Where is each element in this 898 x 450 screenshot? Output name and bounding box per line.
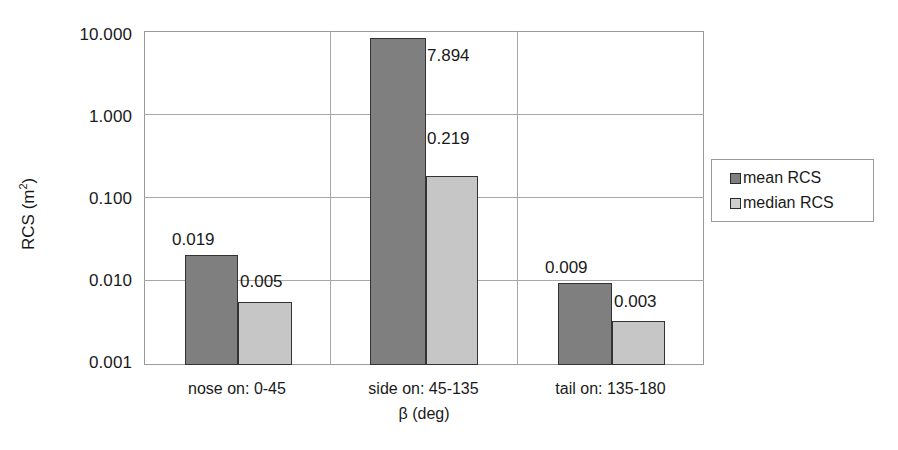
ytick-label: 10.000 — [26, 26, 132, 43]
ytick-1: 1.000 — [0, 108, 132, 125]
legend-swatch-icon — [730, 173, 741, 184]
chart-figure: 10.000 1.000 0.100 0.010 0.001 RCS (m2) … — [0, 0, 898, 450]
y-axis-title-close: ) — [19, 178, 38, 184]
bar-median-tail-on — [612, 321, 665, 365]
ytick-0.001: 0.001 — [0, 354, 132, 371]
bar-label-median-tail-on: 0.003 — [614, 293, 657, 310]
bar-median-nose-on — [238, 302, 292, 365]
ytick-label: 0.010 — [26, 272, 132, 289]
ytick-label: 0.001 — [26, 354, 132, 371]
y-axis-title: RCS (m2) — [14, 144, 38, 284]
category-label-side-on: side on: 45-135 — [330, 380, 517, 398]
bar-label-mean-nose-on: 0.019 — [172, 231, 215, 248]
y-axis-title-sup: 2 — [17, 183, 29, 189]
legend-item-median-rcs: median RCS — [730, 195, 834, 211]
legend-label: median RCS — [743, 195, 834, 211]
bar-label-median-side-on: 0.219 — [427, 130, 470, 147]
legend-label: mean RCS — [743, 170, 821, 186]
bar-median-side-on — [426, 176, 478, 365]
x-axis-title: β (deg) — [144, 405, 704, 423]
bar-label-mean-side-on: 7.894 — [427, 47, 470, 64]
bar-mean-side-on — [370, 38, 426, 365]
bar-mean-nose-on — [185, 255, 238, 365]
bar-label-mean-tail-on: 0.009 — [545, 259, 588, 276]
category-separator-1 — [330, 31, 331, 365]
ytick-label: 1.000 — [26, 108, 132, 125]
category-label-tail-on: tail on: 135-180 — [517, 380, 704, 398]
ytick-label: 0.100 — [26, 190, 132, 207]
category-label-nose-on: nose on: 0-45 — [144, 380, 330, 398]
bar-label-median-nose-on: 0.005 — [240, 273, 283, 290]
chart-legend: mean RCS median RCS — [711, 159, 874, 222]
category-separator-2 — [517, 31, 518, 365]
bar-mean-tail-on — [558, 283, 612, 365]
y-axis-title-text: RCS (m — [19, 190, 38, 250]
ytick-10: 10.000 — [0, 26, 132, 43]
legend-item-mean-rcs: mean RCS — [730, 170, 821, 186]
legend-swatch-icon — [730, 198, 741, 209]
